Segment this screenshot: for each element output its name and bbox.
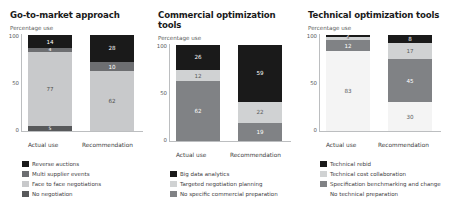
bar-segment[interactable]: 30 (388, 102, 432, 131)
bar-segment-value: 77 (46, 86, 53, 92)
bar-segment-value: 28 (108, 45, 115, 51)
legend-item[interactable]: Targeted negotiation planning (170, 180, 292, 188)
bar-segment[interactable]: 5 (28, 126, 72, 131)
legend-label: No specific commercial preparation (180, 191, 278, 198)
bars-group: 261262 592219 (172, 44, 290, 141)
bar-segment[interactable]: 10 (90, 62, 134, 72)
legend-item[interactable]: Technical rebid (320, 160, 446, 168)
x-axis-line (21, 131, 143, 132)
category-labels: Actual use Recommendation (304, 142, 446, 154)
bar-segment-value: 62 (108, 98, 115, 104)
y-axis-line (21, 34, 22, 131)
y-tick-50: 50 (12, 81, 19, 86)
plot-area: 100 50 0 231283 8174530 (304, 36, 446, 140)
legend-swatch-icon (320, 171, 327, 178)
panel-subtitle: Percentage use (158, 35, 292, 42)
bar-segment[interactable]: 17 (388, 43, 432, 59)
stacked-bar-actual-use[interactable]: 144775 (28, 35, 72, 131)
legend-item[interactable]: Multi supplier events (22, 170, 142, 178)
bar-segment[interactable]: 12 (176, 70, 220, 82)
y-tick-0: 0 (164, 138, 167, 143)
legend: Technical rebidTechnical cost collaborat… (320, 160, 446, 198)
category-label-recommendation: Recommendation (82, 142, 133, 148)
y-tick-50: 50 (310, 81, 317, 86)
bar-segment[interactable]: 12 (326, 40, 370, 52)
y-axis-ticks: 100 50 0 (304, 36, 318, 132)
y-tick-0: 0 (16, 128, 19, 133)
legend-swatch-icon (320, 181, 327, 188)
x-axis-line (169, 141, 291, 142)
category-label-recommendation: Recommendation (378, 142, 429, 148)
plot-area: 100 50 0 261262 592219 (154, 46, 292, 150)
category-label-actual-use: Actual use (176, 152, 206, 158)
y-tick-100: 100 (9, 34, 19, 39)
chart-panel-commercial-optimization: Commercial optimization tools Percentage… (148, 0, 298, 202)
legend-swatch-icon (170, 181, 177, 188)
panel-title: Technical optimization tools (308, 10, 446, 20)
legend-item[interactable]: Big data analytics (170, 170, 292, 178)
legend-swatch-icon (170, 191, 177, 198)
bar-segment-value: 10 (108, 64, 115, 70)
legend-item[interactable]: No negotiation (22, 190, 142, 198)
legend-item[interactable]: Face to face negotiations (22, 180, 142, 188)
bar-segment[interactable]: 26 (176, 45, 220, 70)
bar-segment[interactable]: 14 (28, 35, 72, 48)
stacked-bar-recommendation[interactable]: 8174530 (388, 35, 432, 131)
panel-title: Go-to-market approach (10, 10, 142, 20)
bar-segment[interactable]: 19 (238, 123, 282, 141)
bar-segment-value: 12 (194, 73, 201, 79)
x-axis-line (319, 131, 441, 132)
legend-label: Specification benchmarking and change (330, 181, 441, 188)
stacked-bar-recommendation[interactable]: 592219 (238, 45, 282, 141)
legend-label: Face to face negotiations (32, 181, 101, 188)
category-label-actual-use: Actual use (28, 142, 58, 148)
bar-segment-value: 59 (256, 70, 263, 76)
bar-segment-value: 19 (256, 129, 263, 135)
bar-segment[interactable]: 62 (90, 71, 134, 131)
legend-swatch-icon (22, 191, 29, 198)
legend-swatch-icon (170, 171, 177, 178)
panel-subtitle: Percentage use (308, 25, 446, 32)
legend-item[interactable]: Reverse auctions (22, 160, 142, 168)
stacked-bar-recommendation[interactable]: 281062 (90, 35, 134, 131)
y-axis-line (319, 34, 320, 131)
chart-panel-technical-optimization: Technical optimization tools Percentage … (298, 0, 452, 202)
legend-item[interactable]: Technical cost collaboration (320, 170, 446, 178)
bar-segment[interactable]: 62 (176, 81, 220, 141)
y-tick-0: 0 (314, 128, 317, 133)
stacked-bar-actual-use[interactable]: 261262 (176, 45, 220, 141)
y-tick-100: 100 (157, 44, 167, 49)
legend-swatch-icon (320, 191, 327, 198)
bar-segment[interactable]: 83 (326, 51, 370, 131)
bar-segment-value: 45 (406, 78, 413, 84)
bar-segment[interactable]: 8 (388, 35, 432, 43)
bar-segment[interactable]: 77 (28, 52, 72, 126)
category-label-actual-use: Actual use (326, 142, 356, 148)
charts-board: Go-to-market approach Percentage use 100… (0, 0, 452, 202)
bar-segment-value: 62 (194, 108, 201, 114)
bar-segment[interactable]: 22 (238, 102, 282, 123)
bar-segment-value: 5 (49, 126, 52, 131)
bar-segment[interactable]: 28 (90, 35, 134, 62)
chart-panel-go-to-market: Go-to-market approach Percentage use 100… (0, 0, 148, 202)
bar-segment-value: 17 (406, 48, 413, 54)
legend-item[interactable]: No specific commercial preparation (170, 190, 292, 198)
stacked-bar-actual-use[interactable]: 231283 (326, 35, 370, 131)
legend-label: Multi supplier events (32, 171, 90, 178)
bar-segment[interactable]: 59 (238, 45, 282, 102)
bar-segment-value: 12 (344, 43, 351, 49)
legend-item[interactable]: Specification benchmarking and change (320, 180, 446, 188)
legend-label: Reverse auctions (32, 161, 79, 168)
legend-item[interactable]: No technical preparation (320, 190, 446, 198)
bar-segment[interactable]: 45 (388, 59, 432, 102)
y-tick-50: 50 (160, 91, 167, 96)
y-tick-100: 100 (307, 34, 317, 39)
bars-group: 231283 8174530 (322, 34, 444, 131)
category-labels: Actual use Recommendation (6, 142, 142, 154)
category-label-recommendation: Recommendation (230, 152, 281, 158)
bar-segment-value: 26 (194, 54, 201, 60)
category-labels: Actual use Recommendation (154, 152, 292, 164)
legend-label: Technical cost collaboration (330, 171, 406, 178)
bars-group: 144775 281062 (24, 34, 140, 131)
legend-swatch-icon (22, 181, 29, 188)
